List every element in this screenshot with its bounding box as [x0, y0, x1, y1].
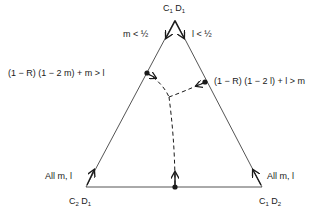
vertex-bottom-right-label: C1 D2: [259, 196, 281, 209]
arrow-bottom-left-icon: [87, 170, 94, 185]
ternary-dynamics-diagram: [0, 0, 330, 216]
equilibrium-right-dot: [202, 79, 207, 84]
arrow-top-left-icon: [166, 21, 175, 38]
right-edge-condition: (1 − R) (1 − 2 l) + l > m: [214, 76, 305, 86]
equilibrium-left-dot: [144, 70, 149, 75]
bottom-left-condition: All m, l: [45, 171, 72, 181]
separatrix-left: [147, 73, 169, 97]
arrow-right-dot-icon: [196, 83, 204, 86]
equilibrium-bottom-dot: [172, 184, 177, 189]
arrow-left-dot-icon: [148, 74, 156, 78]
separatrix-bottom: [169, 97, 175, 187]
top-right-condition: l < ½: [192, 29, 212, 39]
left-edge: [86, 20, 175, 187]
arrow-top-right-icon: [175, 21, 184, 38]
triangle-simplex: [86, 20, 262, 187]
right-edge: [175, 20, 262, 187]
left-edge-condition: (1 − R) (1 − 2 m) + m > l: [8, 68, 105, 78]
vertex-bottom-left-label: C2 D1: [69, 196, 91, 209]
vertex-top-label: C1 D1: [163, 3, 185, 16]
bottom-right-condition: All m, l: [267, 171, 294, 181]
top-left-condition: m < ½: [123, 29, 148, 39]
arrow-bottom-right-icon: [253, 170, 261, 185]
